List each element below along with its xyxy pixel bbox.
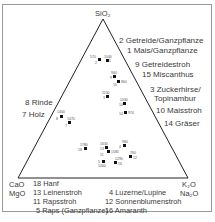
data-point <box>105 146 108 149</box>
legend-label: 2 Getreide/Ganzpflanze <box>119 36 204 45</box>
legend-label: 15 Miscanthus <box>142 70 194 79</box>
data-point <box>102 160 105 163</box>
data-point <box>129 155 132 158</box>
legend-label: 16 Amaranth <box>105 207 147 215</box>
data-point <box>84 147 87 150</box>
data-point <box>113 75 116 78</box>
data-point <box>117 80 120 83</box>
data-point <box>123 144 126 147</box>
legend-label: 13 Leinenstroh <box>33 189 82 197</box>
legend-label: 14 Gräser <box>164 119 200 128</box>
legend-label: 11 Rapsstroh <box>33 198 76 206</box>
legend-label: 12 Sonnenblumenstroh <box>105 198 181 206</box>
data-point <box>114 161 117 164</box>
data-point <box>124 111 127 114</box>
legend-label: Topinambur <box>154 94 196 103</box>
legend-label: 18 Hanf <box>33 180 59 188</box>
legend-label: 4 Luzerne/Lupine <box>109 189 166 197</box>
axis-label-mgo: MgO <box>9 189 25 198</box>
data-point <box>106 95 109 98</box>
legend-label: 8 Rinde <box>25 98 53 107</box>
data-point <box>123 102 126 105</box>
legend-label: 1 Mais/Ganzpflanze <box>127 46 198 55</box>
data-point <box>68 121 71 124</box>
legend-label: 5 Raps (Ganzpflanze) <box>36 207 108 215</box>
legend-label: 7 Holz <box>22 110 45 119</box>
data-point <box>98 58 101 61</box>
legend-label: 9 Getreidestroh <box>135 60 190 69</box>
axis-label-na2o: Na₂O <box>180 189 198 198</box>
axis-label-sio2: SiO₂ <box>95 9 110 18</box>
axis-label-cao: CaO <box>9 180 24 189</box>
data-point <box>60 115 63 118</box>
data-point <box>107 150 110 153</box>
axis-label-k2o: K₂O <box>182 180 196 189</box>
legend-label: 3 Zuckerhirse/ <box>150 85 201 94</box>
legend-label: 10 Maisstroh <box>156 106 202 115</box>
